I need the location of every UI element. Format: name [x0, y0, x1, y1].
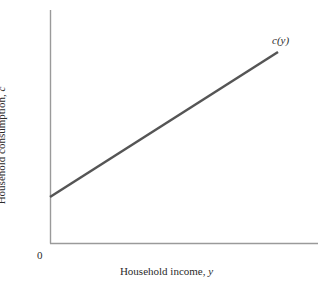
- curve-label-c-of-y: c(y): [272, 35, 289, 46]
- consumption-function-chart: c(y) 0 Household income, y Household con…: [0, 0, 333, 291]
- y-axis-title-variable: c: [0, 87, 7, 92]
- y-axis-title-wrapper: Household consumption, c: [0, 0, 7, 291]
- x-axis-title: Household income, y: [0, 266, 333, 277]
- x-axis-title-variable: y: [208, 265, 213, 277]
- x-axis-title-text: Household income,: [120, 265, 208, 277]
- consumption-function-line: [50, 52, 278, 197]
- y-axis-title: Household consumption, c: [24, 0, 44, 291]
- y-axis-title-text: Household consumption,: [0, 92, 7, 205]
